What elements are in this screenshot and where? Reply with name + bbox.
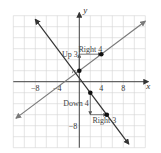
series-line-1-start-arrow [16,116,19,118]
data-point [88,90,93,95]
x-tick-label: 8 [121,84,125,93]
annotation-label: Up 3 [62,50,78,59]
x-axis-label: x [145,81,150,91]
data-point [77,68,82,73]
y-axis-label: y [82,5,87,15]
annotation-label: Right 3 [92,116,116,125]
coordinate-plane-chart: xy −8−448−8 Up 3Right 4Down 4Right 3 [0,0,161,153]
data-point [105,112,110,117]
y-tick-label: −8 [69,122,78,131]
series-line-2-start-arrow [35,19,38,23]
axes: xy [13,5,150,148]
x-tick-label: 4 [99,84,103,93]
data-point [99,52,104,57]
annotation-label: Right 4 [78,45,102,54]
annotation-label: Down 4 [63,99,89,108]
annotations: Up 3Right 4Down 4Right 3 [62,45,116,125]
x-tick-label: −8 [31,84,40,93]
